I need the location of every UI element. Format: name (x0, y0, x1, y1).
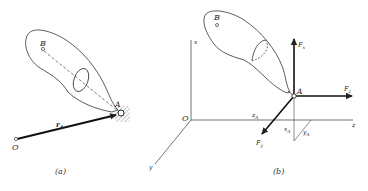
point-a-label-a: A (114, 100, 121, 109)
axis-line-a (44, 51, 118, 111)
dim-ya-label: yA (302, 128, 309, 137)
dim-xa-label: xA (284, 125, 290, 134)
point-a-label-b: A (296, 87, 303, 96)
panel-a: B A O rA (a) (12, 30, 130, 176)
section-ellipse-a (70, 66, 91, 93)
ball-joint-a (118, 110, 124, 116)
position-vector-label: rA (56, 120, 64, 130)
caption-a: (a) (55, 167, 66, 176)
x-axis-label: x (194, 38, 198, 45)
force-fy-label: Fy (255, 139, 264, 148)
point-b-marker-b (216, 24, 219, 27)
position-vector-ra (17, 115, 116, 139)
force-fz-label: Fz (343, 85, 352, 94)
force-fx-label: Fx (297, 41, 306, 50)
y-axis (155, 120, 191, 164)
y-axis-label: y (148, 163, 153, 171)
origin-label-b: O (182, 114, 189, 123)
origin-marker-a (14, 137, 17, 140)
panel-b: x z y O B Fx Fz Fy A (148, 11, 356, 176)
rigid-body-support-diagram: B A O rA (a) x z y O B (0, 0, 368, 191)
point-b-label-b: B (213, 13, 220, 22)
z-axis-label: z (351, 121, 356, 128)
point-b-label-a: B (39, 39, 46, 48)
ball-joint-b (292, 94, 296, 98)
origin-label-a: O (12, 143, 19, 152)
dim-za-label: zA (251, 111, 258, 120)
caption-b: (b) (273, 167, 284, 176)
